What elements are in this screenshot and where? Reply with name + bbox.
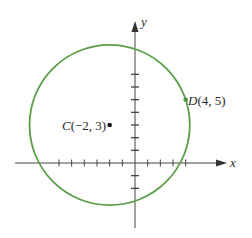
point-d-name: D [188,93,197,108]
y-axis-arrow-icon [132,21,139,32]
point-d-label: D(4, 5) [188,94,226,107]
diagram-canvas [0,0,252,238]
coordinate-diagram: y x C(−2, 3) D(4, 5) [0,0,252,238]
point-c-label: C(−2, 3) [62,119,106,132]
point-c [107,123,112,128]
point-c-coords: (−2, 3) [71,118,107,133]
x-axis-arrow-icon [216,160,227,167]
x-axis-label: x [230,156,236,169]
y-axis-label: y [141,15,147,28]
point-d-coords: (4, 5) [197,93,225,108]
point-c-name: C [62,118,71,133]
